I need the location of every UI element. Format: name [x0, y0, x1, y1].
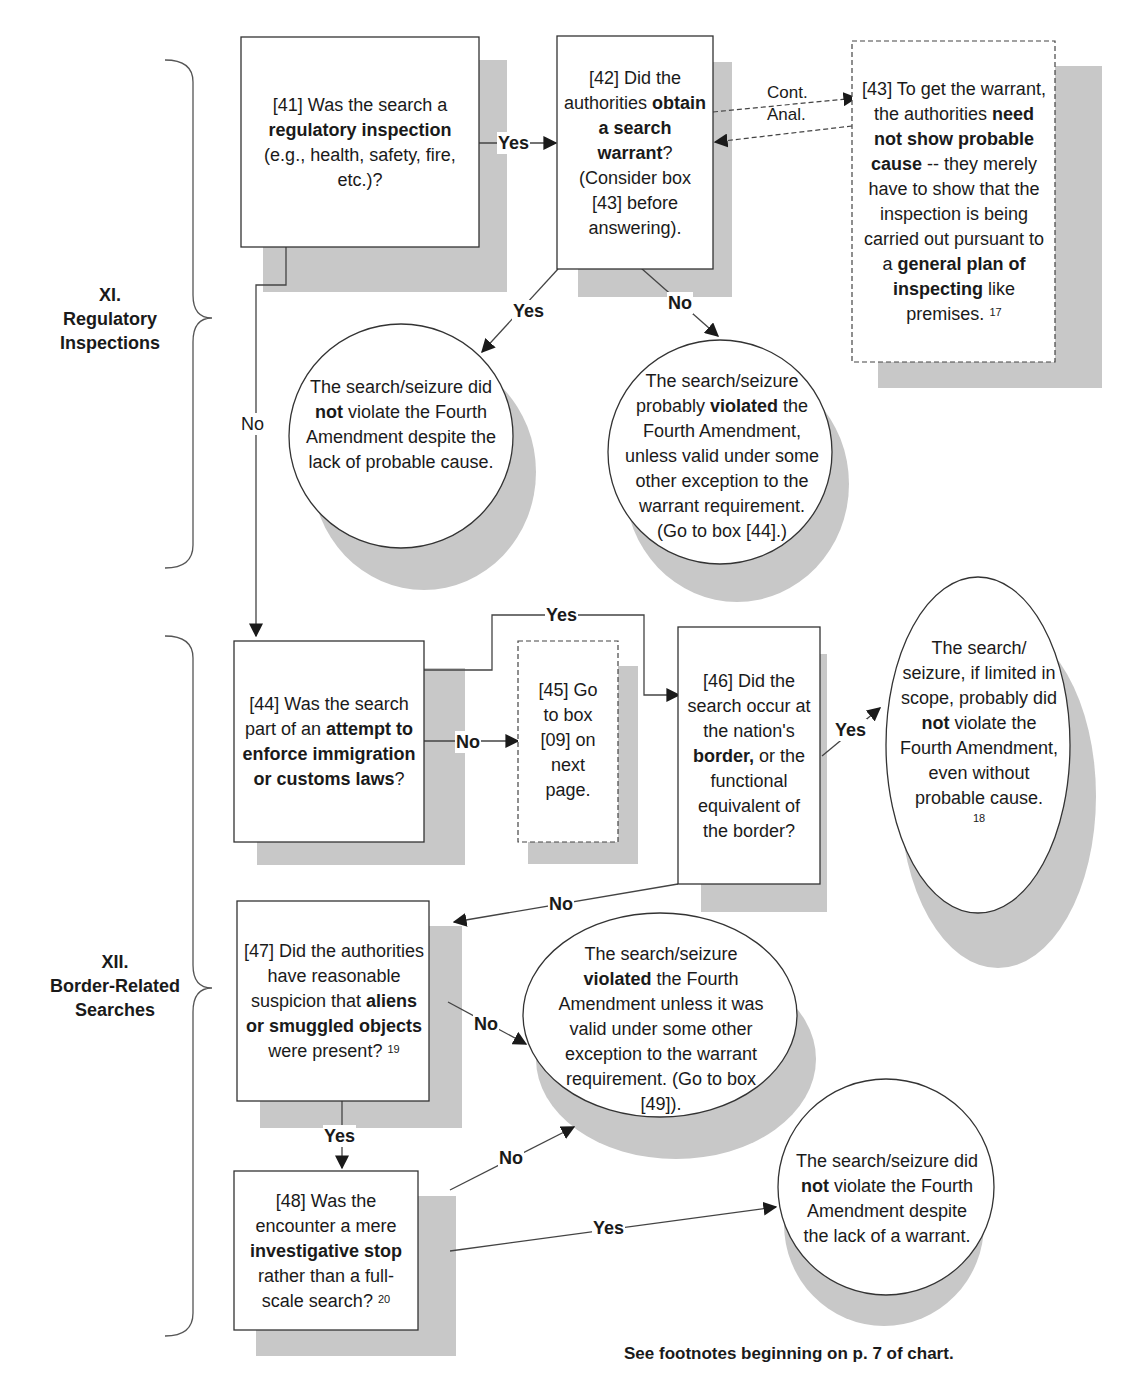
edge-label-47-48-yes: Yes: [323, 1125, 356, 1147]
box-48-bold: investigative stop: [250, 1241, 402, 1261]
circle-violated-bold: violated: [583, 969, 651, 989]
circle-prob-violated-bold: violated: [710, 396, 778, 416]
section-xii-title-2: Searches: [75, 1000, 155, 1020]
box-43: [43] To get the warrant, the authorities…: [858, 44, 1050, 360]
section-xii-number: XII.: [101, 952, 128, 972]
edge-label-48-yes: Yes: [592, 1217, 625, 1239]
edge-label-44-45-no: No: [455, 731, 481, 753]
circle-not-violate-pc-bold: not: [315, 402, 343, 422]
circle-not-violate-warrant-text: The search/seizure did: [796, 1151, 978, 1171]
section-xi-title-2: Inspections: [60, 333, 160, 353]
section-xi-label: XI. Regulatory Inspections: [40, 283, 180, 355]
ellipse-border-ok-bold: not: [921, 713, 949, 733]
edge-label-47-no: No: [473, 1013, 499, 1035]
footnote-17: 17: [989, 306, 1001, 318]
section-xi-title: Regulatory: [63, 309, 157, 329]
edge-label-cont-anal: Cont. Anal.: [767, 82, 808, 126]
footnote-19: 19: [387, 1043, 399, 1055]
cont-label: Cont.: [767, 83, 808, 102]
edge-label-44-46-yes: Yes: [545, 604, 578, 626]
circle-prob-violated-text-end: the Fourth Amendment, unless valid under…: [625, 396, 819, 541]
circle-not-violate-warrant: The search/seizure did not violate the F…: [792, 1134, 982, 1264]
circle-prob-violated: The search/seizure probably violated the…: [622, 366, 822, 546]
circle-violated-text: The search/seizure: [584, 944, 737, 964]
flowchart-canvas: XI. Regulatory Inspections XII. Border-R…: [0, 0, 1122, 1390]
circle-violated-text-end: the Fourth Amendment unless it was valid…: [558, 969, 763, 1114]
edge-label-41-44-no: No: [240, 413, 265, 435]
box-42: [42] Did the authorities obtain a search…: [562, 38, 708, 268]
box-48-text: [48] Was the encounter a mere: [255, 1191, 396, 1236]
box-45-text: [45] Go to box [09] on next page.: [532, 678, 604, 803]
box-46: [46] Did the search occur at the nation'…: [684, 632, 814, 880]
box-46-text: [46] Did the search occur at the nation'…: [687, 671, 810, 741]
box-47-text-end: were present?: [268, 1041, 382, 1061]
edge-label-42-yes: Yes: [512, 300, 545, 322]
edge-label-46-yes: Yes: [834, 719, 867, 741]
ellipse-border-ok: The search/ seizure, if limited in scope…: [898, 612, 1060, 848]
circle-violated: The search/seizure violated the Fourth A…: [550, 936, 772, 1122]
footnotes-note: See footnotes beginning on p. 7 of chart…: [624, 1344, 954, 1364]
box-46-bold: border,: [693, 746, 754, 766]
circle-not-violate-pc: The search/seizure did not violate the F…: [298, 370, 504, 480]
section-xii-title: Border-Related: [50, 976, 180, 996]
anal-label: Anal.: [767, 105, 806, 124]
box-44: [44] Was the search part of an attempt t…: [240, 652, 418, 832]
edge-label-48-no: No: [498, 1147, 524, 1169]
section-xi-number: XI.: [99, 285, 121, 305]
edge-label-41-42-yes: Yes: [497, 132, 530, 154]
box-41-text: [41] Was the search a: [273, 95, 447, 115]
box-41-text-end: (e.g., health, safety, fire, etc.)?: [264, 145, 456, 190]
ellipse-border-ok-text: The search/ seizure, if limited in scope…: [901, 638, 1057, 708]
section-xii-label: XII. Border-Related Searches: [40, 950, 190, 1022]
circle-not-violate-pc-text: The search/seizure did: [310, 377, 492, 397]
box-48-text-end: rather than a full-scale search?: [258, 1266, 394, 1311]
edge-label-42-no: No: [667, 292, 693, 314]
edge-label-46-no: No: [548, 893, 574, 915]
box-44-text-end: ?: [395, 769, 405, 789]
box-47: [47] Did the authorities have reasonable…: [242, 905, 426, 1097]
footnote-18: 18: [898, 811, 1060, 825]
footnote-20: 20: [378, 1293, 390, 1305]
box-48: [48] Was the encounter a mere investigat…: [238, 1176, 414, 1326]
circle-not-violate-warrant-text-end: violate the Fourth Amendment despite the…: [803, 1176, 973, 1246]
circle-not-violate-warrant-bold: not: [801, 1176, 829, 1196]
box-45: [45] Go to box [09] on next page.: [532, 660, 604, 820]
box-41: [41] Was the search a regulatory inspect…: [248, 40, 472, 246]
box-41-bold: regulatory inspection: [268, 120, 451, 140]
